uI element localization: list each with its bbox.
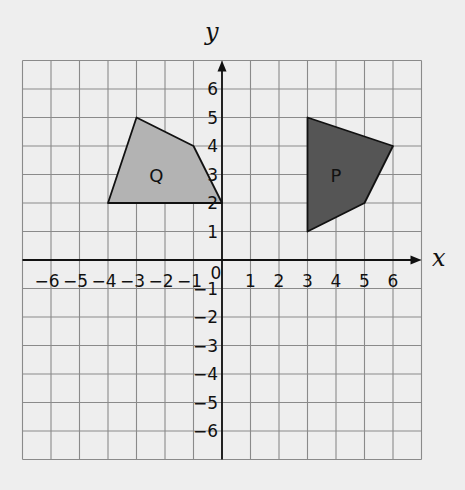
x-tick-label: −5 bbox=[63, 271, 88, 291]
y-tick-label: −3 bbox=[193, 336, 218, 356]
y-tick-label: 1 bbox=[207, 222, 218, 242]
x-tick-label: −4 bbox=[91, 271, 116, 291]
x-axis-arrow-icon bbox=[411, 256, 422, 265]
y-tick-label: −4 bbox=[193, 364, 218, 384]
x-tick-label: 4 bbox=[331, 271, 342, 291]
x-axis-label: x bbox=[432, 244, 446, 272]
y-tick-label: 4 bbox=[207, 136, 218, 156]
x-tick-label: −2 bbox=[148, 271, 173, 291]
y-tick-label: −2 bbox=[193, 307, 218, 327]
y-tick-label: 3 bbox=[207, 165, 218, 185]
x-tick-label: 5 bbox=[359, 271, 370, 291]
origin-label: 0 bbox=[211, 263, 222, 283]
x-tick-label: 3 bbox=[302, 271, 313, 291]
y-tick-label: 2 bbox=[207, 193, 218, 213]
coordinate-grid-figure: QP −6−5−4−3−2−1123456−6−5−4−3−2−11234560… bbox=[0, 0, 465, 490]
x-tick-label: 1 bbox=[245, 271, 256, 291]
coordinate-plane: QP −6−5−4−3−2−1123456−6−5−4−3−2−11234560… bbox=[0, 0, 465, 490]
y-axis-arrow-icon bbox=[218, 61, 227, 72]
y-tick-label: 6 bbox=[207, 79, 218, 99]
shape-label-q: Q bbox=[149, 165, 163, 186]
y-tick-label: −5 bbox=[193, 393, 218, 413]
x-tick-label: −3 bbox=[120, 271, 145, 291]
x-tick-label: 6 bbox=[388, 271, 399, 291]
x-tick-label: 2 bbox=[274, 271, 285, 291]
shape-label-p: P bbox=[331, 165, 342, 186]
x-tick-label: −6 bbox=[34, 271, 59, 291]
y-tick-label: 5 bbox=[207, 108, 218, 128]
y-tick-label: −6 bbox=[193, 421, 218, 441]
axes bbox=[23, 61, 422, 460]
y-axis-label: y bbox=[204, 18, 219, 46]
